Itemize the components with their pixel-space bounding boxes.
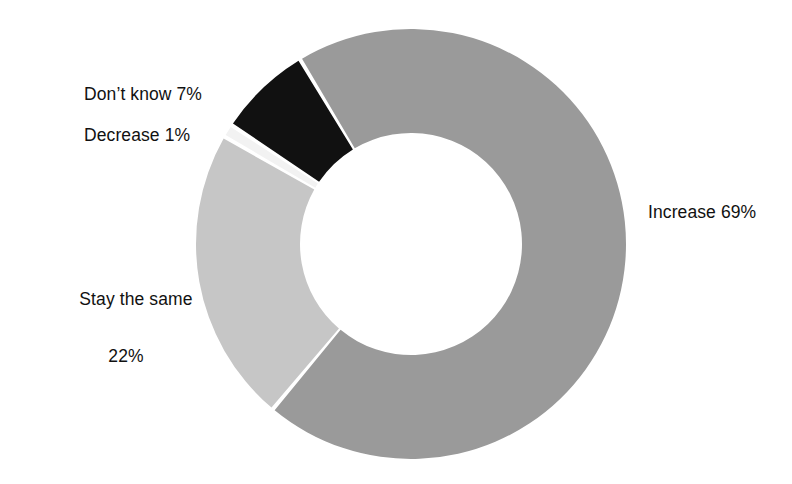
slice-label-stay-the-same-line2: 22% — [26, 342, 226, 370]
slice-label-stay-the-same: Stay the same 22% — [26, 257, 226, 427]
slice-label-dont-know: Don’t know 7% — [84, 80, 202, 108]
slice-label-decrease: Decrease 1% — [84, 121, 190, 149]
slice-label-stay-the-same-line1: Stay the same — [79, 289, 192, 309]
slice-label-increase: Increase 69% — [648, 198, 756, 226]
donut-chart: Increase 69% Don’t know 7% Decrease 1% S… — [0, 0, 792, 484]
